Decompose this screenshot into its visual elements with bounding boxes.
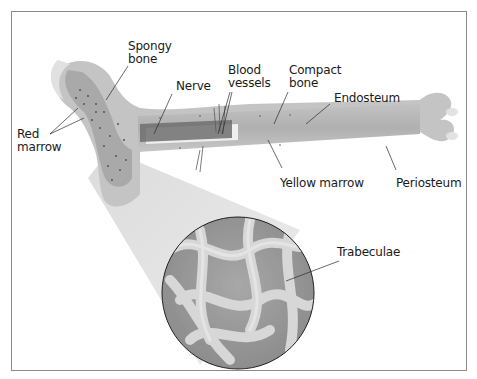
label-spongy-bone: Spongy bone [128,40,172,66]
trabeculae-magnification [162,217,320,369]
label-red-marrow: Red marrow [17,128,61,154]
label-periosteum: Periosteum [396,177,461,190]
label-blood-vessels: Blood vessels [228,64,271,90]
label-nerve: Nerve [176,80,211,93]
label-yellow-marrow: Yellow marrow [280,177,364,190]
label-trabeculae: Trabeculae [337,246,400,259]
label-endosteum: Endosteum [334,92,400,105]
label-compact-bone: Compact bone [289,64,341,90]
